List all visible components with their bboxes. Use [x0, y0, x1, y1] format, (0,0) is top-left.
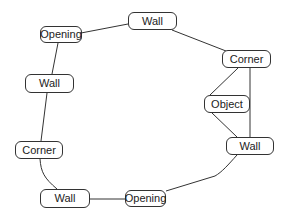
edge-opening-top-wall-top [81, 24, 128, 33]
node-wall-right[interactable]: Wall [226, 137, 274, 155]
edge-wall-left-corner-left [41, 93, 47, 141]
node-opening-top[interactable]: Opening [40, 26, 82, 43]
edge-wall-right-opening-bottom [166, 155, 237, 191]
edge-object-wall-right [212, 113, 237, 137]
node-object[interactable]: Object [204, 95, 250, 113]
edge-wall-top-corner-right [172, 30, 226, 51]
edge-corner-right-object [210, 68, 238, 95]
node-opening-bottom[interactable]: Opening [125, 190, 166, 207]
node-wall-top[interactable]: Wall [128, 12, 177, 30]
edge-corner-left-wall-bottom [40, 159, 57, 189]
node-wall-left[interactable]: Wall [25, 74, 74, 93]
edge-opening-top-wall-left [52, 43, 58, 74]
node-wall-bottom[interactable]: Wall [40, 189, 90, 208]
node-corner-right[interactable]: Corner [222, 50, 271, 68]
node-corner-left[interactable]: Corner [15, 141, 63, 159]
